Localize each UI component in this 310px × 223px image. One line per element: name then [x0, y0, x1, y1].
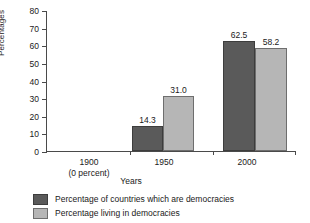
y-tick-80: 80 — [42, 11, 47, 12]
bar-2000-population: 58.2 — [255, 48, 287, 151]
bar-2000-countries: 62.5 — [223, 41, 255, 151]
y-tick-40: 40 — [42, 82, 47, 83]
plot-area: 0 10 20 30 40 50 60 70 80 190 — [46, 11, 295, 152]
legend-swatch-light-icon — [33, 208, 48, 219]
bar-chart-figure: Percentages 0 10 20 30 40 50 60 70 80 — [0, 0, 310, 223]
x-axis-title: Years — [0, 176, 310, 186]
y-tick-60: 60 — [42, 46, 47, 47]
legend-item-countries: Percentage of countries which are democr… — [33, 192, 303, 206]
y-tick-30: 30 — [42, 99, 47, 100]
y-tick-0: 0 — [42, 152, 47, 153]
y-tick-50: 50 — [42, 64, 47, 65]
legend-label-countries: Percentage of countries which are democr… — [55, 194, 234, 205]
y-tick-20: 20 — [42, 117, 47, 118]
x-group-label-2000: 2000 — [238, 157, 257, 168]
legend-swatch-dark-icon — [33, 194, 48, 205]
legend-item-population: Percentage living in democracies — [33, 206, 303, 220]
y-tick-10: 10 — [42, 134, 47, 135]
y-axis-title: Percentages — [0, 10, 6, 56]
x-group-label-1950: 1950 — [155, 157, 174, 168]
bar-1950-population: 31.0 — [163, 96, 194, 151]
bar-1950-countries: 14.3 — [132, 126, 163, 151]
y-tick-70: 70 — [42, 29, 47, 30]
x-tick-1 — [130, 151, 131, 155]
x-tick-2 — [213, 151, 214, 155]
x-tick-3 — [295, 151, 296, 155]
legend-label-population: Percentage living in democracies — [55, 208, 180, 219]
chart-legend: Percentage of countries which are democr… — [33, 192, 303, 220]
